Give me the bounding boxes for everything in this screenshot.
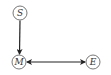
node-s: S	[13, 6, 27, 20]
node-m: M	[12, 55, 26, 69]
node-e-label: E	[89, 57, 97, 67]
node-e: E	[86, 55, 100, 69]
node-m-label: M	[13, 57, 24, 67]
node-s-label: S	[17, 8, 23, 18]
causal-diagram: S M E	[0, 0, 111, 75]
edge-s-to-m	[20, 21, 21, 55]
